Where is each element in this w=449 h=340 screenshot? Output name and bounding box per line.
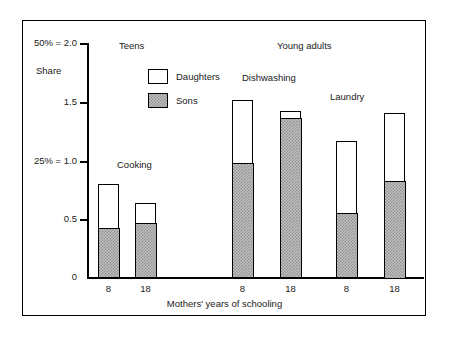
- bar-sons-dishwashing-18: [280, 118, 302, 278]
- group-label-dishwashing: Dishwashing: [242, 72, 296, 83]
- legend-swatch-daughters-icon: [148, 69, 168, 84]
- bar-dishwashing-18: [280, 111, 301, 278]
- y-tick-2.0: [80, 43, 88, 45]
- x-tick-label-cooking-8: 8: [98, 283, 119, 294]
- bar-dishwashing-8: [232, 100, 253, 278]
- y-tick-label-1.5: 1.5: [64, 97, 77, 107]
- legend-label-sons: Sons: [176, 95, 198, 106]
- y-tick-0.5: [80, 219, 88, 221]
- bar-sons-laundry-18: [384, 181, 406, 278]
- group-label-laundry: Laundry: [330, 91, 364, 102]
- bar-laundry-8: [336, 141, 357, 278]
- x-tick-label-laundry-18: 18: [384, 283, 405, 294]
- x-tick-label-cooking-18: 18: [135, 283, 156, 294]
- x-axis-title: Mothers' years of schooling: [0, 299, 449, 309]
- y-tick-1.5: [80, 102, 88, 104]
- y-tick-label-0: 0: [72, 272, 77, 282]
- figure-frame: [22, 20, 426, 316]
- bar-cooking-8: [98, 184, 119, 278]
- x-tick-label-dishwashing-18: 18: [280, 283, 301, 294]
- y-tick-label-1.0: 25% = 1.0: [34, 156, 77, 166]
- section-label-teens: Teens: [119, 40, 144, 51]
- bar-sons-cooking-8: [98, 228, 120, 278]
- y-tick-1.0: [80, 161, 88, 163]
- y-axis-title: Share: [36, 66, 61, 76]
- bar-sons-laundry-8: [336, 213, 358, 279]
- y-tick-label-2.0: 50% = 2.0: [34, 38, 77, 48]
- x-tick-label-dishwashing-8: 8: [232, 283, 253, 294]
- bar-cooking-18: [135, 203, 156, 278]
- chart-figure: 50% = 2.0 1.5 25% = 1.0 0.5 0 Share Teen…: [0, 0, 449, 340]
- x-tick-label-laundry-8: 8: [336, 283, 357, 294]
- y-tick-label-0.5: 0.5: [64, 214, 77, 224]
- group-label-cooking: Cooking: [117, 159, 152, 170]
- legend-label-daughters: Daughters: [176, 71, 220, 82]
- section-label-young-adults: Young adults: [277, 40, 332, 51]
- bar-sons-cooking-18: [135, 223, 157, 278]
- bar-sons-dishwashing-8: [232, 163, 254, 279]
- legend-swatch-sons-icon: [148, 93, 168, 108]
- bar-laundry-18: [384, 113, 405, 278]
